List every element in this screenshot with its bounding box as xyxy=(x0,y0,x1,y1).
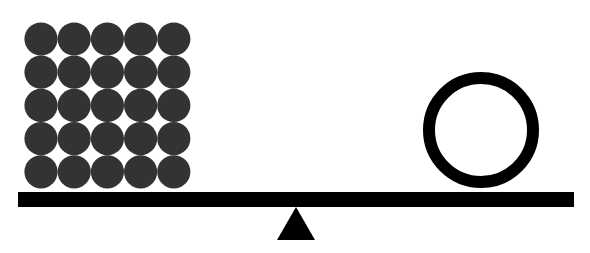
ball xyxy=(24,122,57,155)
ball xyxy=(91,89,124,122)
ball xyxy=(124,122,157,155)
ball xyxy=(124,89,157,122)
ball xyxy=(58,22,91,55)
fulcrum-triangle xyxy=(277,207,315,240)
ball xyxy=(91,22,124,55)
ball xyxy=(24,56,57,89)
ball xyxy=(157,89,190,122)
ball xyxy=(24,22,57,55)
ball xyxy=(91,56,124,89)
ball xyxy=(58,122,91,155)
ball xyxy=(24,89,57,122)
balance-scale-diagram xyxy=(0,0,590,253)
balance-beam xyxy=(18,192,574,207)
ball xyxy=(58,89,91,122)
ball xyxy=(58,56,91,89)
ball xyxy=(91,155,124,188)
ball xyxy=(124,155,157,188)
ring xyxy=(429,78,533,182)
ball xyxy=(91,122,124,155)
ball xyxy=(124,56,157,89)
ball xyxy=(24,155,57,188)
ball-grid xyxy=(24,22,190,188)
ball xyxy=(157,56,190,89)
ball xyxy=(157,22,190,55)
ball xyxy=(58,155,91,188)
ball xyxy=(157,122,190,155)
ball xyxy=(157,155,190,188)
ball xyxy=(124,22,157,55)
